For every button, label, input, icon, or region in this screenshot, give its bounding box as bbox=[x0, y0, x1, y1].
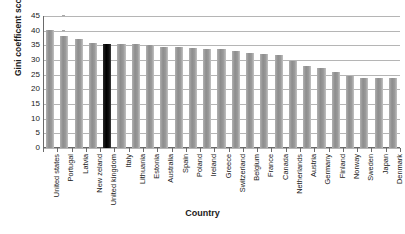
x-axis-tick-mark bbox=[300, 148, 301, 152]
bar bbox=[132, 44, 140, 148]
x-label-slot: Denmark bbox=[386, 154, 400, 204]
bar bbox=[89, 43, 97, 148]
bar bbox=[260, 54, 268, 148]
bar-slot bbox=[43, 16, 57, 148]
bar bbox=[60, 36, 68, 148]
bar-slot bbox=[314, 16, 328, 148]
y-axis-tick-label: 0 bbox=[36, 144, 40, 152]
bar bbox=[232, 51, 240, 148]
x-label-slot: Latvia bbox=[72, 154, 86, 204]
y-axis-tick-label: 20 bbox=[31, 85, 40, 93]
x-label-slot: Norway bbox=[343, 154, 357, 204]
bar bbox=[360, 78, 368, 148]
x-label-slot: Switzerland bbox=[229, 154, 243, 204]
x-label-slot: Ireland bbox=[200, 154, 214, 204]
bar bbox=[303, 66, 311, 148]
x-axis-tick-mark bbox=[400, 148, 401, 152]
x-label-slot: Netherlands bbox=[286, 154, 300, 204]
bar-slot bbox=[257, 16, 271, 148]
bar bbox=[160, 47, 168, 148]
bar-series bbox=[43, 16, 400, 148]
x-axis-tick-label: Denmark bbox=[396, 154, 403, 184]
x-axis-tick-mark bbox=[72, 148, 73, 152]
x-axis-tick-mark bbox=[172, 148, 173, 152]
y-axis-tick-label: 10 bbox=[31, 115, 40, 123]
bar-slot bbox=[114, 16, 128, 148]
bar-slot bbox=[357, 16, 371, 148]
bar bbox=[317, 68, 325, 148]
bar-slot bbox=[57, 16, 71, 148]
bar bbox=[103, 44, 111, 148]
bar-slot bbox=[300, 16, 314, 148]
bar-slot bbox=[100, 16, 114, 148]
x-label-slot: Sweden bbox=[357, 154, 371, 204]
x-label-slot: United kingdom bbox=[100, 154, 114, 204]
x-axis-tick-mark bbox=[371, 148, 372, 152]
bar bbox=[75, 39, 83, 148]
y-axis-tick-labels: 051015202530354045 bbox=[22, 16, 40, 148]
bar-slot bbox=[72, 16, 86, 148]
bar bbox=[46, 30, 54, 148]
x-label-slot: Lithuania bbox=[129, 154, 143, 204]
x-axis-tick-mark bbox=[229, 148, 230, 152]
x-axis-tick-mark bbox=[86, 148, 87, 152]
bar-slot bbox=[143, 16, 157, 148]
x-label-slot: New zeland bbox=[86, 154, 100, 204]
x-label-slot: Greece bbox=[214, 154, 228, 204]
y-axis-tick-label: 5 bbox=[36, 129, 40, 137]
bar-slot bbox=[157, 16, 171, 148]
x-label-slot: Belgium bbox=[243, 154, 257, 204]
x-label-slot: Japan bbox=[371, 154, 385, 204]
x-axis-tick-mark bbox=[100, 148, 101, 152]
x-axis-tick-labels: United statesPortugalLatviaNew zelandUni… bbox=[43, 154, 400, 204]
x-axis-tick-mark bbox=[186, 148, 187, 152]
x-axis-tick-mark bbox=[257, 148, 258, 152]
x-axis-tick-mark bbox=[243, 148, 244, 152]
y-axis-tick-label: 25 bbox=[31, 71, 40, 79]
x-axis-tick-mark bbox=[386, 148, 387, 152]
x-label-slot: Austria bbox=[300, 154, 314, 204]
bar bbox=[117, 44, 125, 148]
x-axis-tick-mark bbox=[57, 148, 58, 152]
x-label-slot: Germany bbox=[314, 154, 328, 204]
bar bbox=[175, 47, 183, 148]
bar bbox=[275, 55, 283, 148]
bar-slot bbox=[229, 16, 243, 148]
bar bbox=[217, 49, 225, 148]
bar bbox=[389, 78, 397, 148]
x-label-slot: Poland bbox=[186, 154, 200, 204]
x-label-slot: Canada bbox=[272, 154, 286, 204]
bar-slot bbox=[286, 16, 300, 148]
bar-slot bbox=[371, 16, 385, 148]
x-axis-tick-mark bbox=[357, 148, 358, 152]
bar-slot bbox=[172, 16, 186, 148]
x-label-slot: Australia bbox=[157, 154, 171, 204]
x-axis-tick-mark bbox=[343, 148, 344, 152]
x-label-slot: Estonia bbox=[143, 154, 157, 204]
x-axis-tick-mark bbox=[143, 148, 144, 152]
bar bbox=[203, 49, 211, 148]
plot-area bbox=[43, 16, 400, 148]
x-axis-title: Country bbox=[0, 208, 405, 218]
y-axis-tick-label: 35 bbox=[31, 41, 40, 49]
x-label-slot: Spain bbox=[172, 154, 186, 204]
x-axis-tick-mark bbox=[271, 148, 272, 152]
y-axis-tick-label: 40 bbox=[31, 27, 40, 35]
x-label-slot: Italy bbox=[114, 154, 128, 204]
bar-slot bbox=[329, 16, 343, 148]
bar-slot bbox=[129, 16, 143, 148]
bar-slot bbox=[243, 16, 257, 148]
bar bbox=[289, 61, 297, 148]
y-axis-tick-label: 15 bbox=[31, 100, 40, 108]
x-label-slot: Finland bbox=[329, 154, 343, 204]
bar bbox=[346, 76, 354, 148]
bar bbox=[246, 53, 254, 148]
x-axis-tick-mark bbox=[214, 148, 215, 152]
x-axis-tick-mark bbox=[329, 148, 330, 152]
bar-slot bbox=[200, 16, 214, 148]
x-axis-tick-mark bbox=[157, 148, 158, 152]
x-axis-tick-mark bbox=[43, 148, 44, 152]
x-label-slot: United states bbox=[43, 154, 57, 204]
bar-slot bbox=[86, 16, 100, 148]
y-axis-tick-label: 45 bbox=[31, 12, 40, 20]
